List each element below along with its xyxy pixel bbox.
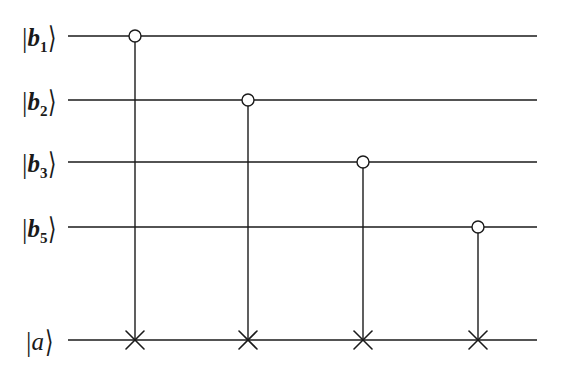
ket-subscript: 3 bbox=[40, 166, 48, 181]
gate-connector-group bbox=[135, 36, 478, 340]
wire-label-b1: |b1⟩ bbox=[22, 21, 59, 51]
control-node-2 bbox=[242, 94, 254, 106]
ket-bar-glyph: | bbox=[26, 329, 31, 356]
ket-symbol: a bbox=[31, 329, 44, 354]
circuit-canvas bbox=[0, 0, 563, 374]
ket-bar-glyph: | bbox=[22, 25, 27, 52]
ket-symbol: b bbox=[27, 216, 40, 241]
ket-symbol: b bbox=[27, 151, 40, 176]
ket-subscript: 5 bbox=[40, 231, 48, 246]
control-node-1 bbox=[129, 30, 141, 42]
ket-symbol: b bbox=[27, 89, 40, 114]
ket-subscript: 1 bbox=[40, 40, 48, 55]
wire-label-b3: |b3⟩ bbox=[22, 147, 59, 177]
ket-angle-bracket: ⟩ bbox=[45, 327, 53, 357]
quantum-circuit-figure: |b1⟩ |b2⟩ |b3⟩ |b5⟩ |a⟩ bbox=[0, 0, 563, 374]
ket-bar-glyph: | bbox=[22, 151, 27, 178]
ket-angle-bracket: ⟩ bbox=[48, 23, 56, 53]
ket-symbol: b bbox=[27, 25, 40, 50]
wire-label-a: |a⟩ bbox=[26, 325, 56, 355]
control-node-3 bbox=[357, 156, 369, 168]
control-node-group bbox=[129, 30, 484, 233]
ket-bar-glyph: | bbox=[22, 89, 27, 116]
ket-bar-glyph: | bbox=[22, 216, 27, 243]
ket-angle-bracket: ⟩ bbox=[48, 214, 56, 244]
ket-angle-bracket: ⟩ bbox=[48, 87, 56, 117]
ket-angle-bracket: ⟩ bbox=[48, 149, 56, 179]
ket-subscript: 2 bbox=[40, 104, 48, 119]
wire-label-b5: |b5⟩ bbox=[22, 212, 59, 242]
wire-label-b2: |b2⟩ bbox=[22, 85, 59, 115]
wire-group bbox=[68, 36, 537, 340]
control-node-4 bbox=[472, 221, 484, 233]
